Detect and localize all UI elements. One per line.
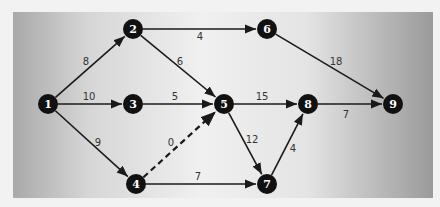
node-label: 1	[44, 98, 52, 111]
edge-weight-label: 6	[177, 56, 183, 67]
edge-weight-label: 18	[330, 56, 343, 67]
node-6: 6	[257, 19, 277, 39]
edge-weight-label: 10	[83, 91, 96, 102]
edge-weight-label: 12	[246, 134, 259, 145]
node-label: 6	[263, 23, 271, 36]
node-2: 2	[123, 19, 143, 39]
edge-weight-label: 0	[168, 137, 174, 148]
edge-weight-label: 8	[83, 56, 89, 67]
edge-weight-label: 7	[195, 171, 201, 182]
node-label: 5	[220, 98, 228, 111]
node-label: 3	[129, 98, 137, 111]
node-9: 9	[383, 94, 403, 114]
node-label: 2	[129, 23, 137, 36]
node-3: 3	[123, 94, 143, 114]
node-4: 4	[126, 174, 146, 194]
node-label: 9	[389, 98, 397, 111]
node-1: 1	[38, 94, 58, 114]
node-label: 8	[304, 98, 312, 111]
node-label: 4	[132, 178, 140, 191]
node-label: 7	[263, 178, 271, 191]
node-5: 5	[214, 94, 234, 114]
node-8: 8	[298, 94, 318, 114]
edge-weight-label: 15	[256, 91, 269, 102]
edge-weight-label: 7	[343, 109, 349, 120]
network-diagram: 81094650715121847 123456789	[0, 0, 440, 207]
node-7: 7	[257, 174, 277, 194]
edge-weight-label: 4	[290, 143, 296, 154]
edge-weight-label: 4	[197, 31, 203, 42]
edge-weight-label: 9	[95, 137, 101, 148]
edge-weight-label: 5	[172, 91, 178, 102]
